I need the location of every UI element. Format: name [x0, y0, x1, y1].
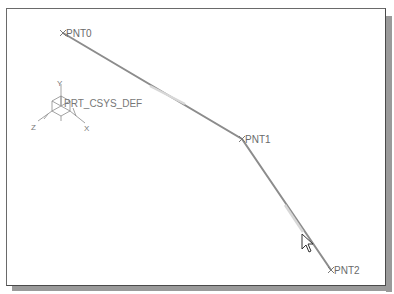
datum-point-label: PNT0: [66, 28, 92, 39]
csys-y-axis-label: Y: [57, 79, 63, 88]
csys-z-axis-label: Z: [31, 123, 36, 132]
datum-curve[interactable]: [63, 33, 331, 270]
csys-label: PRT_CSYS_DEF: [64, 98, 142, 109]
datum-point-label: PNT2: [334, 265, 360, 276]
csys-x-axis-label: X: [84, 124, 90, 133]
datum-point-label: PNT1: [245, 134, 271, 145]
datum-point-pnt2[interactable]: PNT2: [328, 265, 360, 276]
model-scene: PNT0 PNT1 PNT2 Y X Z PRT_CSYS_DEF: [0, 0, 394, 294]
